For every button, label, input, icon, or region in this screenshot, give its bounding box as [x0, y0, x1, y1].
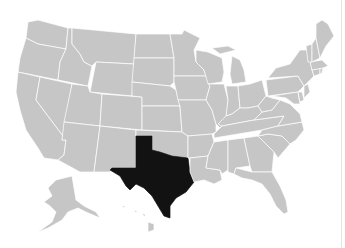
state-hawaii[interactable]	[122, 206, 154, 232]
us-map	[0, 0, 345, 248]
state-iowa[interactable]	[174, 76, 210, 100]
state-alaska[interactable]	[38, 176, 100, 232]
state-colorado[interactable]	[100, 94, 142, 130]
state-rhode-island[interactable]	[320, 68, 323, 74]
state-new-mexico[interactable]	[94, 126, 136, 172]
state-north-dakota[interactable]	[134, 34, 174, 58]
state-wyoming[interactable]	[90, 62, 134, 96]
frame-edge	[341, 0, 342, 248]
state-maine[interactable]	[316, 20, 334, 58]
state-south-dakota[interactable]	[132, 58, 174, 86]
state-kansas[interactable]	[142, 106, 182, 132]
state-florida[interactable]	[234, 168, 288, 214]
state-new-jersey[interactable]	[304, 84, 310, 98]
